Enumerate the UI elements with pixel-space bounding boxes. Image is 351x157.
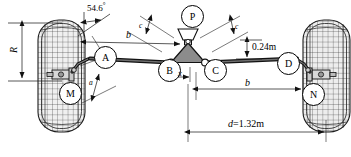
height-024m-text: 0.24m [252, 42, 276, 52]
node-D-label: D [285, 58, 292, 69]
node-A-label: A [102, 52, 109, 63]
label-offset-x: x [178, 69, 182, 78]
node-M-label: M [66, 88, 75, 99]
node-A: A [94, 46, 117, 69]
degree-symbol-icon: ° [103, 1, 106, 9]
node-M: M [59, 82, 82, 105]
node-C: C [204, 59, 227, 82]
label-angle-54-6: 54.6° [87, 2, 106, 13]
node-P-label: P [190, 11, 196, 22]
dimension-angle-54-6 [78, 12, 110, 36]
dimension-c-left [128, 16, 174, 52]
c-left-text: c [139, 21, 142, 30]
node-D: D [277, 52, 300, 75]
label-b-bottom: b [245, 78, 250, 88]
label-height-024m: 0.24m [252, 43, 276, 53]
label-track-d: d=1.32m [228, 119, 264, 129]
node-N-label: N [310, 89, 317, 100]
offset-x-text: x [178, 68, 182, 78]
label-c-left: c [139, 22, 142, 30]
dimension-c-right [200, 16, 248, 52]
diagram-canvas: A B C D M N P 54.6° R b c c 0.24m x [0, 0, 351, 157]
b-bottom-text: b [245, 77, 250, 88]
label-c-right: c [235, 23, 238, 31]
angle-a-text: a [89, 78, 93, 87]
angle-54-6-value: 54.6 [87, 3, 103, 13]
node-N: N [302, 83, 325, 106]
label-angle-a: a [89, 79, 93, 87]
label-radius-R: R [9, 47, 19, 53]
track-d-value: =1.32m [233, 118, 264, 129]
radius-R-text: R [8, 47, 19, 53]
node-B-label: B [166, 65, 173, 76]
c-right-text: c [235, 22, 238, 31]
label-b-top: b [126, 30, 131, 40]
node-P: P [181, 5, 204, 28]
b-top-text: b [126, 29, 131, 40]
node-C-label: C [212, 65, 219, 76]
